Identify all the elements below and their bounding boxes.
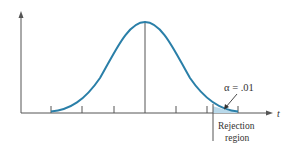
t-distribution-diagram: α = .01 t Rejection region: [0, 0, 293, 154]
alpha-pointer: [226, 94, 237, 107]
rejection-label-line1: Rejection: [218, 121, 255, 131]
y-axis-arrow-icon: [19, 11, 24, 18]
rejection-label-line2: region: [225, 133, 250, 143]
x-axis-label: t: [277, 108, 280, 119]
x-axis-arrow-icon: [266, 111, 273, 116]
alpha-label: α = .01: [224, 82, 254, 93]
